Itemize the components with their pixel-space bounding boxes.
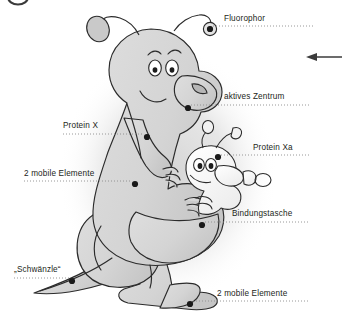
anchor-dot [144,134,150,140]
left-pointing-arrow [306,53,342,61]
label-bindungstasche: Bindungstasche [232,210,292,218]
anchor-dot [132,181,138,187]
label-fluorophor: Fluorophor [224,15,265,23]
anchor-dot [187,301,193,307]
anchor-dot [185,105,191,111]
baby-pupil-right [209,163,214,169]
figure-container: Fluorophoraktives ZentrumProtein XProtei… [0,0,342,330]
pupil-right [170,67,175,73]
label-aktives-zentrum: aktives Zentrum [224,93,285,101]
label-protein-xa: Protein Xa [253,144,293,152]
baby-antenna-left-blob [202,120,213,133]
cropped-ring-artifact [8,0,28,5]
anchor-dot [69,278,75,284]
baby-pupil-left [198,163,203,169]
anchor-dot [199,222,205,228]
pacifier [243,171,256,185]
anchor-dot [207,26,213,32]
callout-fluorophor [207,26,313,32]
baby-antenna-right-blob [231,127,242,138]
protein-cartoon-illustration [0,0,342,330]
label-schwaenzle: „Schwänzle“ [14,266,61,274]
label-protein-x: Protein X [63,122,98,130]
antenna-left-blob [83,13,113,45]
anchor-dot [215,154,221,160]
label-mobile-elemente-foot: 2 mobile Elemente [217,290,287,298]
pupil-left [153,67,158,73]
label-mobile-elemente-arm: 2 mobile Elemente [24,170,94,178]
